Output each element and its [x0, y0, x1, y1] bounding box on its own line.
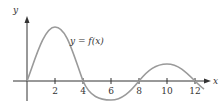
y-axis-arrow-icon — [25, 16, 30, 23]
x-axis-label: x — [213, 76, 218, 86]
x-axis-arrow-icon — [204, 79, 211, 84]
svg-text:6: 6 — [108, 86, 114, 96]
svg-text:12: 12 — [189, 86, 200, 96]
svg-text:10: 10 — [161, 86, 173, 96]
curve-label: y = f(x) — [69, 36, 104, 46]
y-axis-label: y — [12, 5, 19, 15]
chart: x y 2 4 6 8 10 12 y = f(x) — [0, 0, 224, 110]
svg-text:2: 2 — [52, 86, 58, 96]
svg-text:8: 8 — [136, 86, 142, 96]
svg-text:4: 4 — [80, 86, 86, 96]
